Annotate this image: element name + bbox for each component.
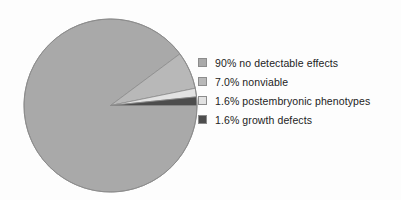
legend-swatch-growth-defects <box>198 115 207 124</box>
pie-chart-figure: 90% no detectable effects 7.0% nonviable… <box>0 0 401 200</box>
legend-item-nonviable[interactable]: 7.0% nonviable <box>198 72 398 91</box>
chart-legend: 90% no detectable effects 7.0% nonviable… <box>198 53 398 129</box>
pie-plot-area <box>0 0 210 200</box>
legend-swatch-postembryonic-phenotypes <box>198 96 207 105</box>
legend-label-postembryonic-phenotypes: 1.6% postembryonic phenotypes <box>215 95 370 107</box>
legend-swatch-nonviable <box>198 77 207 86</box>
legend-swatch-no-detectable-effects <box>198 58 207 67</box>
legend-label-growth-defects: 1.6% growth defects <box>215 114 312 126</box>
pie-slice-group <box>24 19 197 192</box>
legend-item-no-detectable-effects[interactable]: 90% no detectable effects <box>198 53 398 72</box>
legend-label-nonviable: 7.0% nonviable <box>215 76 288 88</box>
legend-item-postembryonic-phenotypes[interactable]: 1.6% postembryonic phenotypes <box>198 91 398 110</box>
legend-label-no-detectable-effects: 90% no detectable effects <box>215 57 338 69</box>
pie-svg <box>0 0 210 200</box>
legend-item-growth-defects[interactable]: 1.6% growth defects <box>198 110 398 129</box>
